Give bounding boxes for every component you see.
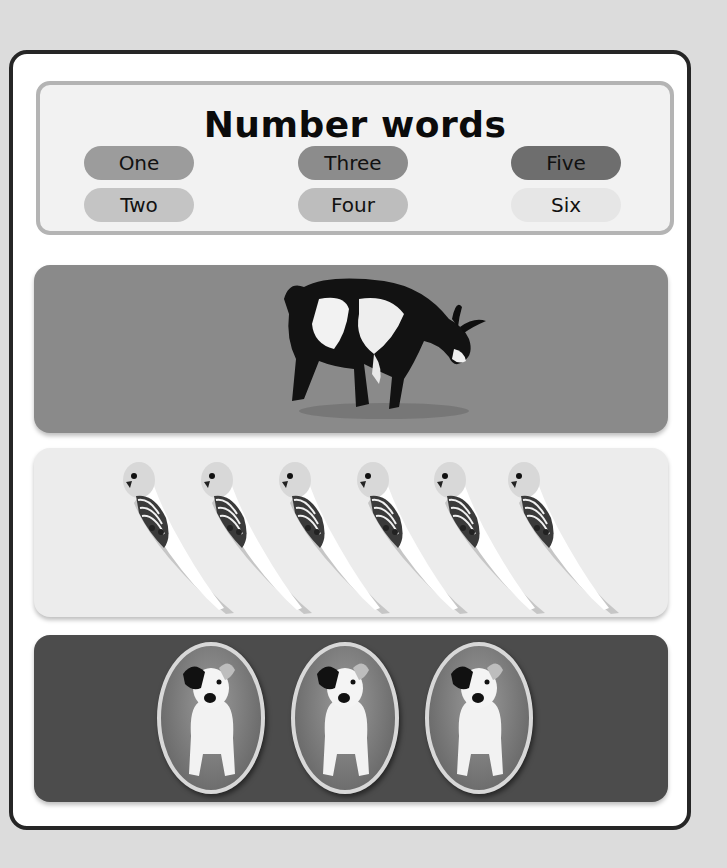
word-pill-five: Five <box>511 146 621 180</box>
goat-image <box>274 269 504 429</box>
budgie-panel <box>34 448 668 617</box>
number-words-box: Number words One Two Three Four Five Six <box>36 81 674 235</box>
dog-image <box>429 646 529 790</box>
word-pill-three: Three <box>298 146 408 180</box>
dog-portrait-1 <box>157 642 265 794</box>
page-title: Number words <box>40 103 670 147</box>
word-pill-six: Six <box>511 188 621 222</box>
dog-portrait-2 <box>291 642 399 794</box>
dog-image <box>161 646 261 790</box>
word-pill-four: Four <box>298 188 408 222</box>
goat-panel <box>34 265 668 433</box>
dog-portrait-3 <box>425 642 533 794</box>
dog-image <box>295 646 395 790</box>
word-pill-two: Two <box>84 188 194 222</box>
dog-panel <box>34 635 668 802</box>
word-pill-one: One <box>84 146 194 180</box>
budgie-group <box>34 448 668 617</box>
